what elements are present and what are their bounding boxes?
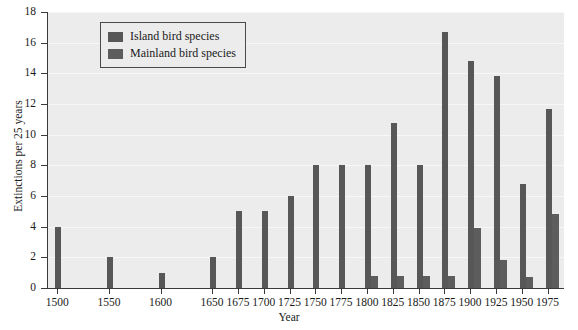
x-axis-tick-label: 1975 — [536, 296, 559, 309]
x-axis-tick-label: 1900 — [459, 296, 482, 309]
x-axis-tick — [161, 289, 162, 294]
legend-item-island: Island bird species — [108, 28, 236, 45]
x-axis-tick — [341, 289, 342, 294]
gridline — [48, 73, 564, 74]
gridline — [48, 165, 564, 166]
bar-island — [159, 273, 165, 288]
x-axis-tick — [548, 289, 549, 294]
x-axis-tick — [444, 289, 445, 294]
gridline — [48, 227, 564, 228]
legend-label-island: Island bird species — [130, 29, 219, 44]
x-axis-tick — [57, 289, 58, 294]
bar-island — [468, 61, 474, 288]
gridline — [48, 135, 564, 136]
bar-island — [365, 165, 371, 288]
x-axis-tick-label: 1725 — [278, 296, 301, 309]
x-axis-tick-label: 1600 — [149, 296, 172, 309]
x-axis-tick — [393, 289, 394, 294]
x-axis-tick-label: 1750 — [304, 296, 327, 309]
x-axis-tick-label: 1850 — [407, 296, 430, 309]
x-axis-tick-label: 1500 — [46, 296, 69, 309]
bar-island — [417, 165, 423, 288]
y-axis-tick-label: 14 — [0, 67, 36, 79]
x-axis-tick — [290, 289, 291, 294]
gridline — [48, 196, 564, 197]
x-axis-tick-label: 1800 — [355, 296, 378, 309]
plot-area: Island bird species Mainland bird specie… — [47, 12, 564, 289]
legend-item-mainland: Mainland bird species — [108, 45, 236, 62]
x-axis-tick — [238, 289, 239, 294]
x-axis-tick-label: 1875 — [433, 296, 456, 309]
bar-island — [520, 184, 526, 288]
bar-island — [210, 257, 216, 288]
bar-island — [107, 257, 113, 288]
y-axis-tick-label: 10 — [0, 129, 36, 141]
legend: Island bird species Mainland bird specie… — [100, 22, 246, 68]
x-axis-tick-label: 1675 — [226, 296, 249, 309]
bar-island — [546, 109, 552, 288]
bar-island — [339, 165, 345, 288]
x-axis-tick — [315, 289, 316, 294]
bar-island — [55, 227, 61, 288]
y-axis-tick-label: 0 — [0, 282, 36, 294]
y-axis-tick-label: 4 — [0, 221, 36, 233]
x-axis-tick — [522, 289, 523, 294]
bar-island — [494, 76, 500, 288]
x-axis-tick-label: 1925 — [484, 296, 507, 309]
y-axis-tick-label: 16 — [0, 37, 36, 49]
y-axis-tick-label: 2 — [0, 251, 36, 263]
x-axis-tick — [367, 289, 368, 294]
bar-island — [262, 211, 268, 288]
x-axis-title: Year — [0, 311, 578, 323]
y-axis-tick-label: 18 — [0, 6, 36, 18]
x-axis-tick — [419, 289, 420, 294]
x-axis-tick — [470, 289, 471, 294]
x-axis-tick-label: 1550 — [97, 296, 120, 309]
y-axis-tick-label: 8 — [0, 159, 36, 171]
bar-island — [313, 165, 319, 288]
y-axis-tick-label: 12 — [0, 98, 36, 110]
y-axis-tick-label: 6 — [0, 190, 36, 202]
x-axis-tick-label: 1825 — [381, 296, 404, 309]
bird-extinctions-bar-chart: Extinctions per 25 years 024681012141618… — [0, 0, 578, 330]
gridline — [48, 12, 564, 13]
bar-island — [442, 32, 448, 288]
gridline — [48, 257, 564, 258]
x-axis-tick-label: 1950 — [510, 296, 533, 309]
bar-island — [288, 196, 294, 288]
bar-island — [391, 123, 397, 288]
legend-label-mainland: Mainland bird species — [130, 46, 236, 61]
x-axis-tick — [109, 289, 110, 294]
x-axis-tick-label: 1650 — [201, 296, 224, 309]
x-axis-tick — [212, 289, 213, 294]
gridline — [48, 104, 564, 105]
x-axis-tick-label: 1700 — [252, 296, 275, 309]
bar-island — [236, 211, 242, 288]
x-axis-tick — [496, 289, 497, 294]
x-axis-tick-label: 1775 — [330, 296, 353, 309]
x-axis-tick — [264, 289, 265, 294]
legend-swatch-mainland-icon — [108, 49, 123, 59]
legend-swatch-island-icon — [108, 32, 123, 42]
